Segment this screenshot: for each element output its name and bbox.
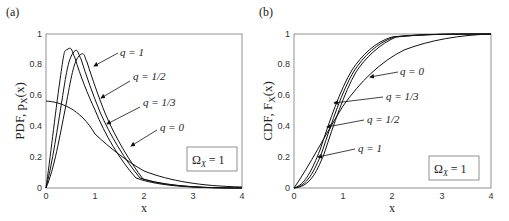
figure: (a) 0 0.2 0.4 0.6 0.8 1 0 1 2 3 4 x PDF,… [0, 0, 509, 221]
svg-text:0: 0 [43, 191, 48, 201]
svg-text:0.2: 0.2 [277, 152, 290, 162]
svg-text:1: 1 [92, 191, 97, 201]
svg-text:q = 1/2: q = 1/2 [367, 113, 400, 125]
panel-b-ylabel: CDF, FX(x) [260, 81, 277, 141]
svg-text:q = 1: q = 1 [120, 46, 144, 58]
pdf-q0 [46, 101, 242, 187]
svg-text:q = 1/2: q = 1/2 [133, 70, 166, 82]
svg-text:q = 0: q = 0 [400, 65, 424, 77]
svg-text:4: 4 [488, 191, 493, 201]
svg-text:0.8: 0.8 [277, 59, 290, 69]
svg-text:q = 1/3: q = 1/3 [143, 96, 176, 108]
svg-text:1: 1 [37, 29, 42, 39]
panel-b: (b) 0 0.2 0.4 0.6 0.8 1 0 1 2 3 4 x CDF,… [259, 5, 494, 215]
svg-text:0: 0 [291, 191, 296, 201]
svg-text:0.6: 0.6 [277, 90, 290, 100]
panel-b-xlabel: x [389, 201, 395, 215]
svg-text:2: 2 [141, 191, 146, 201]
svg-text:1: 1 [340, 191, 345, 201]
svg-text:0.6: 0.6 [29, 90, 42, 100]
panel-a-x-ticks: 0 1 2 3 4 [43, 191, 244, 201]
svg-text:q = 1/3: q = 1/3 [386, 90, 419, 102]
panel-b-y-ticks: 0 0.2 0.4 0.6 0.8 1 [277, 29, 290, 193]
panel-a-label: (a) [6, 5, 19, 19]
panel-a-y-ticks: 0 0.2 0.4 0.6 0.8 1 [29, 29, 42, 193]
panel-a-annotations: q = 1 q = 1/2 q = 1/3 q = 0 [94, 46, 184, 146]
panel-a: (a) 0 0.2 0.4 0.6 0.8 1 0 1 2 3 4 x PDF,… [6, 5, 245, 215]
panel-b-omega-text: ΩX = 1 [434, 162, 467, 178]
svg-text:0.4: 0.4 [29, 121, 42, 131]
svg-text:q = 1: q = 1 [358, 142, 382, 154]
svg-text:0.4: 0.4 [277, 121, 290, 131]
panel-b-label: (b) [259, 5, 273, 19]
svg-text:2: 2 [389, 191, 394, 201]
svg-text:3: 3 [439, 191, 444, 201]
svg-text:0.8: 0.8 [29, 59, 42, 69]
panel-b-x-ticks: 0 1 2 3 4 [291, 191, 493, 201]
svg-text:0: 0 [285, 183, 290, 193]
svg-text:0: 0 [37, 183, 42, 193]
svg-text:q = 0: q = 0 [160, 121, 184, 133]
svg-text:1: 1 [285, 29, 290, 39]
panel-a-ylabel: PDF, pX(x) [12, 82, 29, 139]
panel-a-xlabel: x [141, 201, 147, 215]
svg-text:0.2: 0.2 [29, 152, 42, 162]
svg-text:3: 3 [190, 191, 195, 201]
panel-a-omega-text: ΩX = 1 [192, 153, 225, 169]
svg-text:4: 4 [239, 191, 244, 201]
